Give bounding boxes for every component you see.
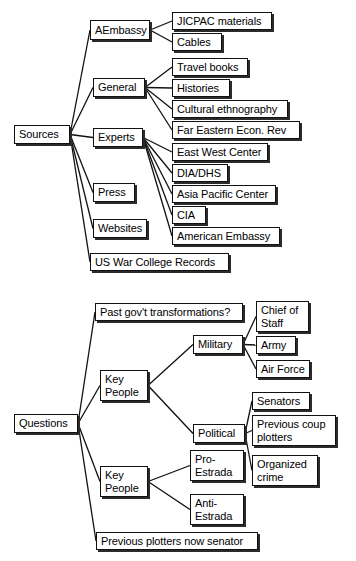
node-travelbooks[interactable]: Travel books bbox=[172, 58, 248, 76]
node-label: Experts bbox=[98, 131, 135, 144]
node-label: Websites bbox=[98, 222, 142, 235]
node-general[interactable]: General bbox=[93, 78, 145, 97]
node-histories[interactable]: Histories bbox=[172, 79, 230, 97]
node-cables[interactable]: Cables bbox=[172, 33, 222, 51]
node-amembassy[interactable]: American Embassy bbox=[172, 227, 280, 245]
node-uswc[interactable]: US War College Records bbox=[90, 253, 229, 271]
node-label: Cultural ethnography bbox=[177, 103, 277, 116]
connector-line bbox=[245, 401, 252, 434]
connector-line bbox=[148, 345, 193, 386]
node-jicpac[interactable]: JICPAC materials bbox=[172, 12, 272, 30]
node-label: Previous plotters now senator bbox=[101, 535, 243, 548]
node-prevcoup[interactable]: Previous coup plotters bbox=[252, 415, 336, 446]
connector-line bbox=[145, 88, 172, 131]
connector-line bbox=[70, 135, 90, 263]
connector-line bbox=[143, 138, 172, 195]
connector-line bbox=[150, 21, 172, 30]
node-questions[interactable]: Questions bbox=[14, 414, 78, 433]
node-pastgov[interactable]: Past gov't transformations? bbox=[95, 303, 243, 321]
node-sources[interactable]: Sources bbox=[14, 125, 70, 144]
node-cia[interactable]: CIA bbox=[172, 206, 206, 224]
node-label: Previous coup plotters bbox=[257, 418, 325, 443]
connector-line bbox=[243, 345, 256, 370]
connector-line bbox=[143, 138, 172, 237]
node-label: Army bbox=[261, 339, 286, 352]
node-army[interactable]: Army bbox=[256, 336, 296, 354]
connector-line bbox=[143, 138, 172, 174]
connector-line bbox=[78, 424, 100, 482]
node-military[interactable]: Military bbox=[193, 335, 243, 354]
node-label: DIA/DHS bbox=[177, 167, 221, 180]
node-label: Key People bbox=[105, 373, 139, 398]
node-websites[interactable]: Websites bbox=[93, 219, 147, 238]
connector-line bbox=[70, 88, 93, 135]
connector-line bbox=[70, 135, 93, 229]
node-label: Past gov't transformations? bbox=[100, 306, 230, 319]
connector-line bbox=[148, 386, 193, 434]
node-label: General bbox=[98, 81, 136, 94]
node-label: American Embassy bbox=[177, 230, 270, 243]
node-press[interactable]: Press bbox=[93, 183, 135, 202]
node-label: Senators bbox=[257, 395, 300, 408]
node-orgcrime[interactable]: Organized crime bbox=[252, 455, 318, 486]
node-airforce[interactable]: Air Force bbox=[256, 360, 310, 378]
node-political[interactable]: Political bbox=[193, 424, 245, 443]
connector-line bbox=[70, 30, 90, 135]
node-experts[interactable]: Experts bbox=[93, 128, 143, 147]
node-keypeople1[interactable]: Key People bbox=[100, 370, 148, 401]
node-label: US War College Records bbox=[95, 256, 215, 269]
node-label: Organized crime bbox=[257, 458, 307, 483]
node-label: JICPAC materials bbox=[177, 15, 261, 28]
connector-line bbox=[150, 30, 172, 42]
node-diadhs[interactable]: DIA/DHS bbox=[172, 164, 228, 182]
connector-line bbox=[243, 317, 256, 345]
connector-line bbox=[148, 466, 190, 482]
node-label: AEmbassy bbox=[95, 24, 147, 37]
node-label: Asia Pacific Center bbox=[177, 188, 268, 201]
connector-line bbox=[143, 138, 172, 153]
node-label: Questions bbox=[19, 417, 68, 430]
connector-line bbox=[243, 345, 256, 346]
node-antiestrada[interactable]: Anti- Estrada bbox=[190, 494, 244, 525]
node-label: Cables bbox=[177, 36, 211, 49]
connector-line bbox=[145, 88, 172, 89]
node-label: Anti- Estrada bbox=[195, 497, 232, 522]
concept-map-canvas: SourcesAEmbassyJICPAC materialsCablesGen… bbox=[0, 0, 356, 561]
node-label: Histories bbox=[177, 82, 219, 95]
node-label: Pro- Estrada bbox=[195, 453, 232, 478]
node-feer[interactable]: Far Eastern Econ. Rev bbox=[172, 121, 300, 139]
connector-line bbox=[148, 482, 190, 510]
connector-line bbox=[145, 88, 172, 110]
node-label: East West Center bbox=[177, 146, 261, 159]
node-label: CIA bbox=[177, 209, 195, 222]
node-label: Key People bbox=[105, 469, 139, 494]
node-chiefstaff[interactable]: Chief of Staff bbox=[256, 301, 309, 332]
node-prevplot[interactable]: Previous plotters now senator bbox=[96, 532, 258, 550]
node-senators[interactable]: Senators bbox=[252, 392, 310, 410]
node-proestrada[interactable]: Pro- Estrada bbox=[190, 450, 244, 481]
node-label: Political bbox=[198, 427, 235, 440]
connector-line bbox=[143, 138, 172, 216]
node-cultural[interactable]: Cultural ethnography bbox=[172, 100, 288, 118]
node-label: Press bbox=[98, 186, 126, 199]
connector-line bbox=[245, 434, 252, 471]
node-keypeople2[interactable]: Key People bbox=[100, 466, 148, 497]
node-apc[interactable]: Asia Pacific Center bbox=[172, 185, 276, 203]
node-label: Travel books bbox=[177, 61, 238, 74]
connector-line bbox=[78, 424, 96, 542]
connector-line bbox=[70, 135, 93, 193]
node-label: Far Eastern Econ. Rev bbox=[177, 124, 286, 137]
node-label: Military bbox=[198, 338, 232, 351]
node-label: Chief of Staff bbox=[261, 304, 298, 329]
connector-line bbox=[78, 312, 95, 424]
node-ewc[interactable]: East West Center bbox=[172, 143, 268, 161]
connector-line bbox=[70, 135, 93, 138]
connector-line bbox=[145, 67, 172, 88]
connector-line bbox=[78, 386, 100, 424]
node-label: Air Force bbox=[261, 363, 305, 376]
node-label: Sources bbox=[19, 128, 59, 141]
node-aembassy[interactable]: AEmbassy bbox=[90, 20, 150, 40]
connector-line bbox=[245, 431, 252, 434]
